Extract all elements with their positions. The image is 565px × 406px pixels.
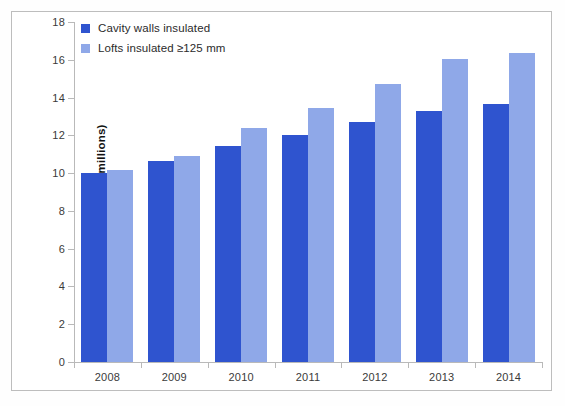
x-axis-tick [408, 362, 409, 368]
y-axis-tick-label: 12 [52, 129, 65, 141]
bar-2010-series-1 [241, 128, 267, 362]
x-axis-tick-label: 2008 [95, 371, 120, 383]
x-axis-tick-label: 2010 [229, 371, 254, 383]
bar-2012-series-0 [349, 122, 375, 362]
y-axis-tick [68, 173, 74, 174]
x-axis-tick [141, 362, 142, 368]
chart-figure: Number of homes (millions) 0246810121416… [0, 0, 565, 406]
y-axis-tick [68, 135, 74, 136]
y-axis-tick [68, 60, 74, 61]
x-axis-tick [542, 362, 543, 368]
x-axis-tick-label: 2013 [429, 371, 454, 383]
bar-2011-series-0 [282, 135, 308, 362]
legend-label-series-0: Cavity walls insulated [98, 22, 210, 34]
y-axis-tick [68, 286, 74, 287]
y-axis-tick-label: 0 [59, 356, 65, 368]
y-axis-tick-label: 2 [59, 318, 65, 330]
bar-2009-series-0 [148, 161, 174, 362]
legend-label-series-1: Lofts insulated ≥125 mm [98, 42, 226, 54]
bar-2014-series-0 [483, 104, 509, 362]
y-axis-tick-label: 16 [52, 54, 65, 66]
x-axis-tick-label: 2014 [496, 371, 521, 383]
chart-legend: Cavity walls insulated Lofts insulated ≥… [81, 22, 226, 54]
y-axis-tick [68, 98, 74, 99]
x-axis-tick [74, 362, 75, 368]
bar-2014-series-1 [509, 53, 535, 362]
y-axis-tick [68, 324, 74, 325]
x-axis-tick-label: 2011 [296, 371, 320, 383]
legend-item-lofts: Lofts insulated ≥125 mm [81, 42, 226, 54]
bar-2009-series-1 [174, 156, 200, 362]
x-axis-tick-label: 2012 [362, 371, 387, 383]
legend-item-cavity-walls: Cavity walls insulated [81, 22, 226, 34]
bar-2008-series-1 [107, 170, 133, 362]
bar-2013-series-0 [416, 111, 442, 362]
y-axis-tick-label: 14 [52, 92, 65, 104]
bar-2008-series-0 [81, 173, 107, 362]
x-axis-tick [208, 362, 209, 368]
y-axis-tick-label: 10 [52, 167, 65, 179]
x-axis-line [74, 362, 542, 363]
y-axis-tick [68, 249, 74, 250]
legend-swatch-icon-series-0 [81, 24, 90, 33]
x-axis-tick [275, 362, 276, 368]
y-axis-tick-label: 18 [52, 16, 65, 28]
legend-swatch-icon-series-1 [81, 44, 90, 53]
y-axis-tick [68, 22, 74, 23]
y-axis-tick-label: 4 [59, 280, 65, 292]
bar-2011-series-1 [308, 108, 334, 362]
bar-2013-series-1 [442, 59, 468, 362]
y-axis-tick-label: 6 [59, 243, 65, 255]
y-axis-tick-label: 8 [59, 205, 65, 217]
x-axis-tick [341, 362, 342, 368]
y-axis-tick [68, 211, 74, 212]
bar-2012-series-1 [375, 84, 401, 362]
x-axis-tick [475, 362, 476, 368]
plot-area: 024681012141618 [74, 22, 542, 362]
x-axis-tick-label: 2009 [162, 371, 187, 383]
bar-2010-series-0 [215, 146, 241, 362]
